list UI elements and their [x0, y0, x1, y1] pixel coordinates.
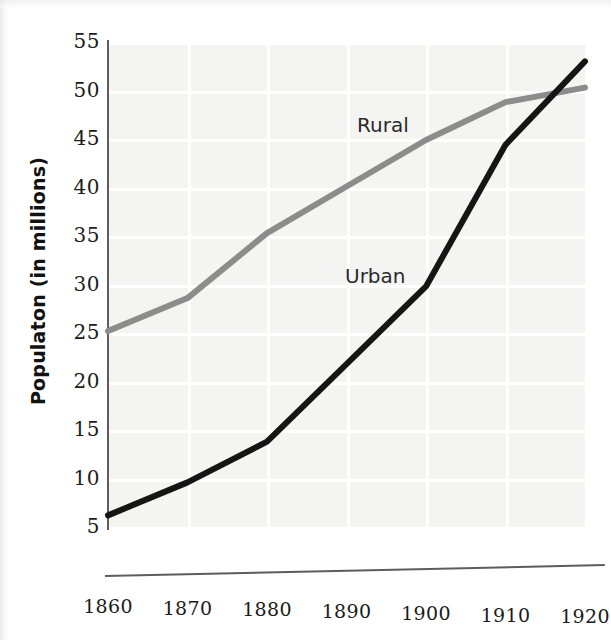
series-label-urban: Urban — [345, 264, 406, 288]
line-chart-figure: 510152025303540455055 186018701880189019… — [0, 0, 611, 640]
series-line-rural — [108, 88, 585, 331]
series-lines — [0, 0, 611, 640]
series-line-urban — [108, 61, 585, 515]
series-label-rural: Rural — [357, 113, 409, 137]
